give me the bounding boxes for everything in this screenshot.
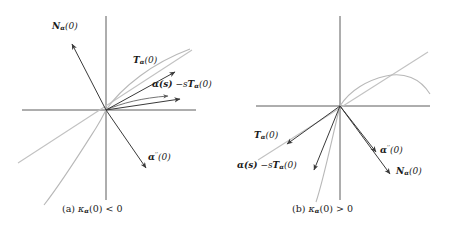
label-accel-a: α′′(0) — [148, 152, 171, 162]
label-N-alpha-a: Nα(0) — [52, 22, 78, 32]
curve-alpha — [44, 49, 190, 205]
label-displacement-a: α(s) −sTα(0) — [152, 80, 212, 90]
label-disp-lead: α(s) — [237, 160, 258, 170]
label-accel-arg: (0) — [390, 145, 403, 155]
label-disp-arg: (0) — [284, 160, 297, 170]
label-T-arg: (0) — [144, 55, 157, 65]
label-accel-b: α′′(0) — [380, 145, 403, 155]
label-T-alpha-a: Tα(0) — [133, 56, 157, 66]
tangent-line — [18, 50, 192, 163]
label-N-base: N — [52, 21, 60, 31]
label-T-alpha-b: Tα(0) — [254, 131, 278, 141]
curve-alpha — [316, 75, 430, 202]
label-accel-arg: (0) — [158, 152, 171, 162]
caption-b: (b) κα(0) > 0 — [292, 203, 353, 214]
label-disp-lead: α(s) — [152, 79, 173, 89]
vector-N-alpha — [340, 106, 390, 174]
vector-N-alpha — [72, 44, 106, 110]
label-N-alpha-b: Nα(0) — [396, 167, 422, 177]
vector-alpha-second-derivative — [106, 110, 146, 168]
caption-a: (a) κα(0) < 0 — [62, 203, 123, 214]
vector-displacement — [106, 99, 180, 110]
label-accel-base: α — [148, 152, 155, 162]
caption-a-rest: (0) < 0 — [89, 203, 123, 214]
label-displacement-b: α(s) −sTα(0) — [237, 161, 297, 171]
vector-T-alpha — [106, 72, 175, 110]
caption-b-rest: (0) > 0 — [320, 203, 354, 214]
label-T-base: T — [254, 130, 261, 140]
caption-b-prefix: (b) — [292, 203, 306, 214]
panel-b: Tα(0) α(s) −sTα(0) α′′(0) Nα(0) (b) κα(0… — [234, 0, 468, 238]
caption-a-prefix: (a) — [62, 203, 75, 214]
label-T-arg: (0) — [265, 130, 278, 140]
label-disp-arg: (0) — [199, 79, 212, 89]
panel-a: Nα(0) Tα(0) α(s) −sTα(0) α′′(0) (a) κα(0… — [0, 0, 234, 238]
figure-container: Nα(0) Tα(0) α(s) −sTα(0) α′′(0) (a) κα(0… — [0, 0, 468, 238]
label-disp-minus: − — [260, 160, 268, 170]
label-disp-minus: − — [175, 79, 183, 89]
label-N-base: N — [396, 166, 404, 176]
label-accel-base: α — [380, 145, 387, 155]
label-N-arg: (0) — [409, 166, 422, 176]
label-T-base: T — [133, 55, 140, 65]
label-N-arg: (0) — [65, 21, 78, 31]
